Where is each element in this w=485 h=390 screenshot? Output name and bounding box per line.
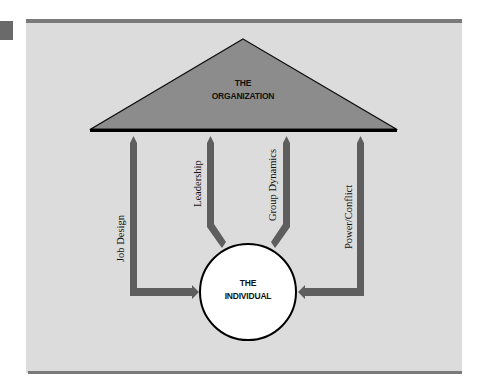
- individual-label-line2: INDIVIDUAL: [225, 291, 272, 301]
- arrow-power-conflict: [298, 136, 364, 299]
- node-organization: THE ORGANIZATION: [90, 39, 397, 131]
- label-power-conflict: Power/Conflict: [343, 185, 354, 249]
- label-job-design: Job Design: [115, 214, 126, 262]
- arrow-job-design: [130, 136, 199, 299]
- connector-group-dynamics: Group Dynamics: [267, 136, 290, 248]
- diagram-canvas: Job Design Leadership Group Dynamics Pow…: [0, 0, 485, 390]
- label-leadership: Leadership: [192, 160, 203, 207]
- connector-job-design: Job Design: [115, 136, 199, 299]
- node-individual: THE INDIVIDUAL: [200, 244, 296, 340]
- label-group-dynamics: Group Dynamics: [267, 149, 278, 221]
- organization-label-line2: ORGANIZATION: [212, 91, 275, 101]
- organization-label-line1: THE: [235, 78, 252, 88]
- individual-label-line1: THE: [240, 278, 257, 288]
- connector-leadership: Leadership: [192, 136, 226, 248]
- arrow-leadership: [207, 136, 226, 248]
- connector-power-conflict: Power/Conflict: [298, 136, 364, 299]
